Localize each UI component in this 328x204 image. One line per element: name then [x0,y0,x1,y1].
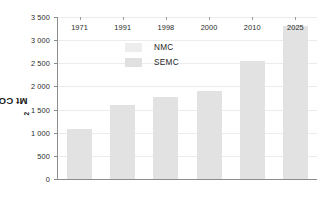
y-tick-mark [54,179,57,180]
gridline [58,86,317,87]
y-tick-mark [54,40,57,41]
x-tick-mark [295,17,296,20]
gridline [58,133,317,134]
y-tick-label: 0 [4,175,50,184]
legend-swatch [125,58,142,67]
bar [197,91,222,179]
bar [240,61,265,179]
gridline [58,110,317,111]
x-tick-mark [252,17,253,20]
y-tick-mark [54,63,57,64]
y-tick-label: 500 [4,151,50,160]
x-tick-mark [209,17,210,20]
gridline [58,156,317,157]
bar-chart-figure: Mt CO2 05001 0001 5002 0002 5003 0003 50… [0,0,328,204]
legend-swatch [125,43,142,52]
y-tick-label: 3 000 [4,36,50,45]
y-tick-label: 1 000 [4,128,50,137]
x-tick-mark [123,17,124,20]
y-tick-mark [54,156,57,157]
plot-area: 05001 0001 5002 0002 5003 0003 500 19711… [57,17,317,180]
y-tick-label: 1 500 [4,105,50,114]
bar [283,26,308,179]
y-tick-mark [54,110,57,111]
bar [67,129,92,179]
legend-item[interactable]: NMC [125,40,179,55]
y-tick-label: 2 000 [4,82,50,91]
legend-label: SEMC [154,58,179,67]
y-tick-label: 3 500 [4,13,50,22]
x-tick-mark [166,17,167,20]
y-tick-label: 2 500 [4,59,50,68]
y-tick-mark [54,17,57,18]
legend-item[interactable]: SEMC [125,55,179,70]
gridline [58,40,317,41]
x-tick-mark [80,17,81,20]
x-tick-label: 2025 [270,23,320,32]
chart-legend: NMCSEMC [125,40,179,70]
bar [110,105,135,179]
legend-label: NMC [154,43,174,52]
gridline [58,17,317,18]
y-tick-mark [54,86,57,87]
y-tick-mark [54,133,57,134]
bar [153,97,178,179]
gridline [58,63,317,64]
